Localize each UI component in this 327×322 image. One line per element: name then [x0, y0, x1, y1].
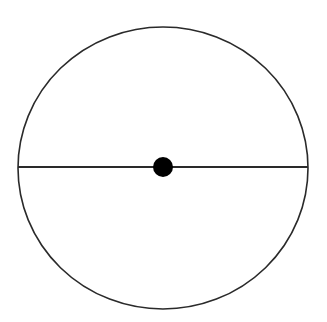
center-point — [153, 157, 173, 177]
circle-diagram — [0, 0, 327, 322]
